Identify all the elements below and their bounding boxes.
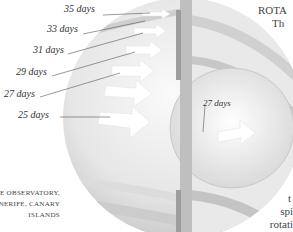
core-label-27-days: 27 days xyxy=(203,98,231,108)
latitude-label-25-days: 25 days xyxy=(18,109,49,120)
latitude-label-29-days: 29 days xyxy=(16,66,47,77)
latitude-label-27-days: 27 days xyxy=(4,88,35,99)
observatory-caption: E OBSERVATORY, NERIFE, CANARY ISLANDS xyxy=(0,188,60,221)
caption-line-1: E OBSERVATORY, xyxy=(0,188,60,199)
title-fragment-line-1: ROTA xyxy=(258,4,287,17)
body-fragment-line-1: t xyxy=(262,192,293,205)
latitude-label-31-days: 31 days xyxy=(33,44,64,55)
caption-line-2: NERIFE, CANARY xyxy=(0,199,60,210)
differential-rotation-diagram: 35 days 33 days 31 days 29 days 27 days … xyxy=(0,0,293,232)
caption-line-3: ISLANDS xyxy=(0,210,60,221)
body-fragment-line-2: spi xyxy=(262,205,293,218)
title-fragment-top: ROTA Th xyxy=(258,4,287,30)
body-fragment-bottom: t spi rotati xyxy=(262,192,293,231)
latitude-label-35-days: 35 days xyxy=(64,3,95,14)
latitude-label-33-days: 33 days xyxy=(47,23,78,34)
body-fragment-line-3: rotati xyxy=(262,218,293,231)
title-fragment-line-2: Th xyxy=(258,17,287,30)
